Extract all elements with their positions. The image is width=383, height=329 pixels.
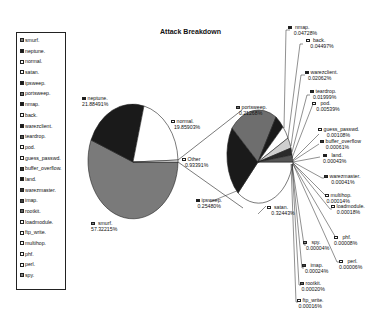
swatch-icon <box>318 128 322 132</box>
swatch-icon <box>20 177 24 181</box>
label-normal: normal. 19.85903% <box>171 118 200 131</box>
label-nmap: nmap. 0.04728% <box>288 24 317 37</box>
label-guess-passwd: guess_passwd. 0.00108% <box>318 126 359 139</box>
legend-item: warezmaster. <box>20 185 65 196</box>
swatch-icon <box>171 120 175 124</box>
label-ftp-write: ftp_write. 0.00016% <box>297 297 324 310</box>
label-pod: pod. 0.00539% <box>312 100 340 113</box>
label-imap: imap. 0.00024% <box>302 262 328 275</box>
legend-item: back. <box>20 110 65 121</box>
swatch-icon <box>297 299 301 303</box>
swatch-icon <box>303 241 307 245</box>
legend-item: warezclient. <box>20 121 65 132</box>
swatch-icon <box>302 264 306 268</box>
label-loadmodule: loadmodule. 0.00018% <box>331 203 365 216</box>
legend-item: perl. <box>20 259 65 270</box>
swatch-icon <box>20 70 24 74</box>
legend-item: nmap. <box>20 99 65 110</box>
legend-item: rootkit. <box>20 206 65 217</box>
swatch-icon <box>20 113 24 117</box>
legend-item: portsweep. <box>20 88 65 99</box>
swatch-icon <box>320 140 324 144</box>
label-rootkit: rootkit. 0.00020% <box>300 280 325 293</box>
swatch-icon <box>300 282 304 286</box>
label-portsweep: portsweep. 0.21268% <box>236 104 267 117</box>
swatch-icon <box>82 97 86 101</box>
swatch-icon <box>20 156 24 160</box>
label-spy: spy. 0.00004% <box>303 239 329 252</box>
swatch-icon <box>20 252 24 256</box>
legend-item: multihop. <box>20 238 65 249</box>
label-warezmaster: warezmaster. 0.00041% <box>324 173 360 186</box>
swatch-icon <box>312 102 316 106</box>
swatch-icon <box>334 236 338 240</box>
secondary-pie <box>227 110 293 203</box>
swatch-icon <box>20 199 24 203</box>
legend-item: guess_passwd. <box>20 153 65 164</box>
legend-item: neptune. <box>20 46 65 57</box>
swatch-icon <box>20 188 24 192</box>
swatch-icon <box>182 158 186 162</box>
swatch-icon <box>20 81 24 85</box>
legend: smurf. neptune. normal. satan. ipsweep. … <box>16 32 66 290</box>
legend-item: buffer_overflow. <box>20 163 65 174</box>
legend-item: normal. <box>20 56 65 67</box>
label-warezclient: warezclient. 0.02062% <box>305 69 338 82</box>
swatch-icon <box>339 260 343 264</box>
label-land: land.0.00043% <box>323 152 346 165</box>
swatch-icon <box>310 90 314 94</box>
legend-item: ipsweep. <box>20 78 65 89</box>
label-back: back. 0.04497% <box>306 37 334 50</box>
swatch-icon <box>20 92 24 96</box>
swatch-icon <box>20 167 24 171</box>
swatch-icon <box>20 49 24 53</box>
swatch-icon <box>20 102 24 106</box>
swatch-icon <box>20 231 24 235</box>
label-perl: perl.0.00006% <box>339 258 362 271</box>
label-ipsweep: ipsweep. 0.25480% <box>196 197 222 210</box>
legend-item: teardrop. <box>20 131 65 142</box>
swatch-icon <box>20 220 24 224</box>
label-teardrop: teardrop. 0.01999% <box>310 88 336 101</box>
label-buffer-overflow: buffer_overflow 0.00061% <box>320 138 361 151</box>
legend-item: land. <box>20 174 65 185</box>
label-smurf: smurf.57.32215% <box>91 220 117 233</box>
swatch-icon <box>91 222 95 226</box>
swatch-icon <box>20 38 24 42</box>
swatch-icon <box>331 205 335 209</box>
swatch-icon <box>20 60 24 64</box>
swatch-icon <box>20 124 24 128</box>
label-phf: phf.0.00008% <box>334 234 357 247</box>
legend-item: ftp_write. <box>20 227 65 238</box>
legend-item: imap. <box>20 195 65 206</box>
primary-pie <box>88 104 178 219</box>
legend-item: smurf. <box>20 35 65 46</box>
swatch-icon <box>196 199 200 203</box>
label-satan: satan. 0.32443% <box>267 204 295 217</box>
swatch-icon <box>324 175 328 179</box>
label-neptune: neptune.21.88491% <box>82 95 108 108</box>
swatch-icon <box>288 26 292 30</box>
legend-item: loadmodule. <box>20 217 65 228</box>
swatch-icon <box>267 206 271 210</box>
swatch-icon <box>305 71 309 75</box>
swatch-icon <box>325 194 329 198</box>
swatch-icon <box>20 263 24 267</box>
swatch-icon <box>20 273 24 277</box>
legend-item: satan. <box>20 67 65 78</box>
swatch-icon <box>236 106 240 110</box>
legend-item: phf. <box>20 249 65 260</box>
label-other: Other 0.93391% <box>182 156 208 169</box>
swatch-icon <box>20 209 24 213</box>
legend-item: spy. <box>20 270 65 281</box>
chart-title: Attack Breakdown <box>160 28 221 35</box>
swatch-icon <box>20 135 24 139</box>
legend-item: pod. <box>20 142 65 153</box>
swatch-icon <box>20 241 24 245</box>
swatch-icon <box>20 145 24 149</box>
swatch-icon <box>306 39 310 43</box>
swatch-icon <box>323 154 327 158</box>
